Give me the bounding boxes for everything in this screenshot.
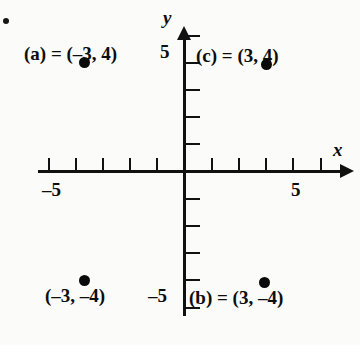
x-axis-tick bbox=[75, 158, 77, 171]
x-axis-tick bbox=[238, 158, 240, 171]
y-axis-tick bbox=[186, 252, 200, 254]
y-axis-tick bbox=[186, 35, 200, 37]
y-axis-label-positive-5: 5 bbox=[160, 42, 170, 61]
y-axis-line bbox=[183, 38, 186, 316]
x-axis-tick bbox=[265, 158, 267, 171]
x-axis-line bbox=[38, 170, 344, 173]
x-axis-tick bbox=[102, 158, 104, 171]
x-axis-tick bbox=[129, 158, 131, 171]
y-axis-label-negative-5: –5 bbox=[148, 286, 167, 305]
y-axis-tick bbox=[186, 89, 200, 91]
y-axis-tick bbox=[186, 143, 200, 145]
x-axis-tick bbox=[292, 158, 294, 171]
point-label-b: (b) = (3, –4) bbox=[189, 288, 283, 307]
x-axis-label-positive-5: 5 bbox=[291, 180, 301, 199]
x-axis-arrow-icon bbox=[340, 164, 354, 178]
y-axis-arrow-icon bbox=[177, 26, 191, 40]
x-axis-tick bbox=[320, 158, 322, 171]
x-axis-tick bbox=[156, 158, 158, 171]
coordinate-plane-figure: –5 5 5 –5 x y (a) = (–3, 4)(c) = (3, 4)(… bbox=[0, 0, 360, 345]
y-axis-tick bbox=[186, 198, 200, 200]
scan-artifact-dot bbox=[3, 18, 9, 24]
y-axis-tick bbox=[186, 225, 200, 227]
point-label-a: (a) = (–3, 4) bbox=[24, 44, 117, 63]
y-axis-tick bbox=[186, 279, 200, 281]
x-axis-tick bbox=[48, 158, 50, 171]
point-label-d: (–3, –4) bbox=[45, 286, 105, 305]
x-axis-tick bbox=[211, 158, 213, 171]
x-axis-name: x bbox=[333, 140, 343, 159]
x-axis-label-negative-5: –5 bbox=[42, 180, 61, 199]
y-axis-name: y bbox=[163, 8, 171, 27]
y-axis-tick bbox=[186, 116, 200, 118]
point-label-c: (c) = (3, 4) bbox=[196, 46, 279, 65]
